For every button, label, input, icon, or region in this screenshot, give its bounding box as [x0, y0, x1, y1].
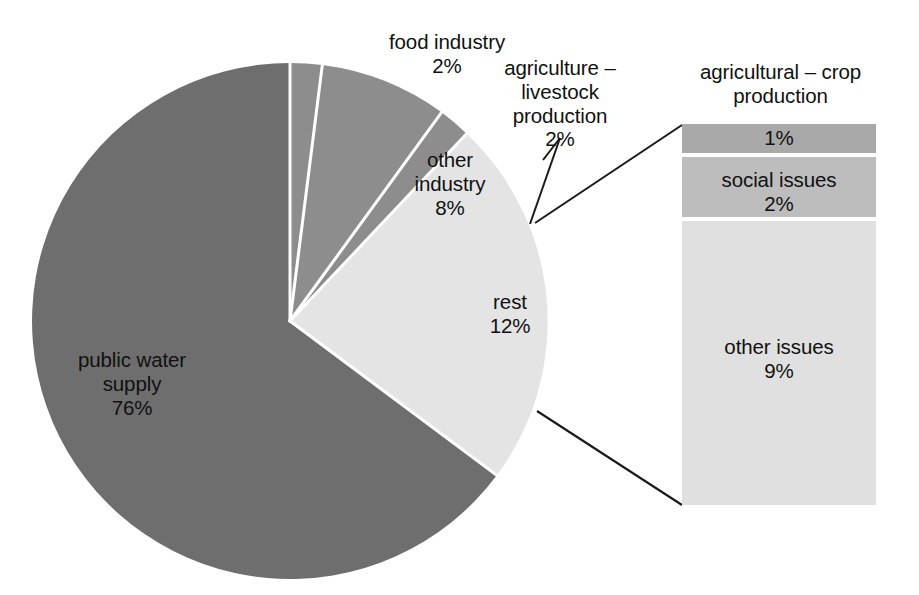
pie-label-public-water-supply: public water supply 76%: [32, 348, 232, 419]
pie-label-agriculture-livestock: agriculture – livestock production 2%: [480, 56, 640, 151]
bar-label-other-issues: other issues 9%: [682, 335, 876, 383]
bar-label-social-issues: social issues 2%: [682, 168, 876, 216]
pie-chart-figure: public water supply 76% food industry 2%…: [0, 0, 919, 595]
bar-title-agricultural-crop-production: agricultural – crop production: [678, 60, 883, 108]
leader-line-bottom: [537, 411, 682, 505]
pie-label-rest: rest 12%: [455, 290, 565, 338]
bar-label-crop-production: 1%: [682, 126, 876, 150]
pie-label-other-industry: other industry 8%: [390, 148, 510, 219]
